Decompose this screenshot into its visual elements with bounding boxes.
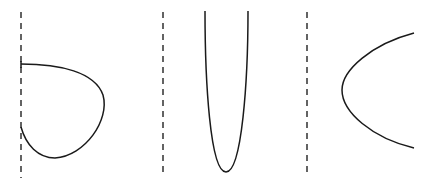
- sideways-parabola-curve: [342, 33, 414, 148]
- u-parabola-curve: [205, 11, 248, 172]
- panel-3: [307, 12, 414, 176]
- panel-2: [163, 11, 248, 176]
- loop-curve: [21, 64, 104, 158]
- diagram-canvas: [0, 0, 434, 184]
- panel-1: [21, 12, 104, 178]
